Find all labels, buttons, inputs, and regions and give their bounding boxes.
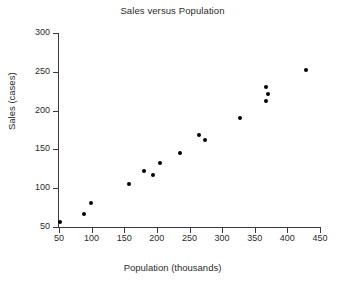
data-point (82, 212, 86, 216)
data-point (203, 138, 207, 142)
x-axis-title: Population (thousands) (0, 262, 345, 273)
y-tick-label: 100 (24, 182, 50, 192)
data-point (58, 220, 62, 224)
y-tick-mark (53, 72, 58, 73)
x-tick-label: 50 (44, 233, 74, 243)
x-tick-label: 450 (305, 233, 335, 243)
data-point (238, 116, 242, 120)
y-tick-label: 250 (24, 66, 50, 76)
x-tick-label: 150 (109, 233, 139, 243)
y-tick-mark (53, 149, 58, 150)
x-tick-label: 250 (175, 233, 205, 243)
data-point (142, 169, 146, 173)
y-tick-label: 150 (24, 143, 50, 153)
y-tick-label: 200 (24, 105, 50, 115)
x-tick-label: 200 (142, 233, 172, 243)
data-point (197, 133, 201, 137)
x-tick-label: 100 (77, 233, 107, 243)
y-tick-label: 50 (24, 221, 50, 231)
x-tick-label: 350 (240, 233, 270, 243)
y-tick-label: 300 (24, 27, 50, 37)
y-tick-mark (53, 111, 58, 112)
data-point (264, 99, 268, 103)
data-point (127, 182, 131, 186)
y-axis-title: Sales (cases) (6, 72, 17, 130)
data-point (264, 85, 268, 89)
x-tick-label: 300 (207, 233, 237, 243)
y-tick-mark (53, 33, 58, 34)
data-point (158, 161, 162, 165)
y-tick-mark (53, 227, 58, 228)
data-point (266, 92, 270, 96)
data-point (151, 173, 155, 177)
chart-title: Sales versus Population (0, 5, 345, 16)
data-point (304, 68, 308, 72)
x-tick-label: 400 (272, 233, 302, 243)
y-tick-mark (53, 188, 58, 189)
scatter-chart: Sales versus Population 5010015020025030… (0, 0, 345, 291)
data-point (89, 201, 93, 205)
plot-area (59, 33, 320, 227)
data-point (178, 151, 182, 155)
